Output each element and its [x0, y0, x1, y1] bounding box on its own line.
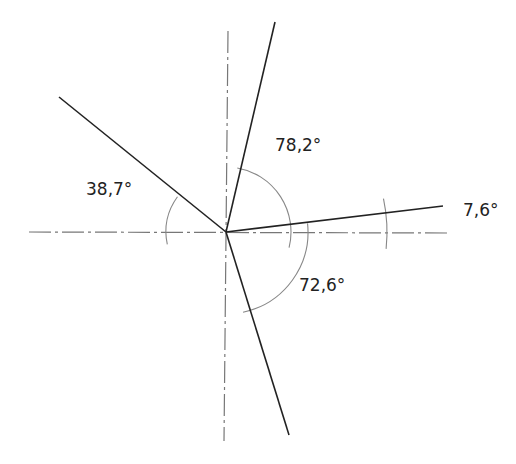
arc-78 [237, 168, 291, 248]
angle-label: 72,6° [299, 275, 345, 295]
angle-label: 38,7° [86, 179, 132, 199]
ray-top [226, 22, 275, 232]
arc-38 [166, 197, 177, 245]
ray-bottom [226, 232, 289, 435]
ray-right [226, 206, 443, 232]
arc-7 [383, 199, 387, 249]
arc-72 [243, 223, 308, 312]
axis-horizontal [29, 232, 448, 233]
ray-left [59, 97, 226, 232]
angle-label: 78,2° [275, 135, 321, 155]
angle-diagram [0, 0, 516, 464]
angle-label: 7,6° [463, 200, 499, 220]
